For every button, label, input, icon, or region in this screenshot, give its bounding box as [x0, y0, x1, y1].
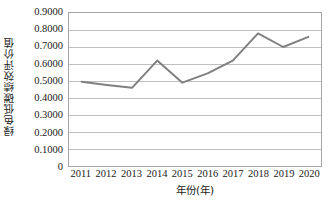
x-axis-tick-label: 2011	[70, 169, 91, 180]
x-axis-tick-label: 2017	[223, 169, 244, 180]
x-axis-tick-label: 2016	[197, 169, 218, 180]
x-axis-title: 年份(年)	[68, 185, 322, 196]
x-axis-tick-label: 2020	[299, 169, 320, 180]
y-axis-tick-label: 0.2000	[34, 127, 63, 138]
x-axis-tick-label: 2012	[96, 169, 117, 180]
data-series-line	[82, 33, 309, 87]
y-axis-title-label: 绿色低碳绩效评价值	[4, 37, 15, 136]
y-axis-tick-label: 0.6000	[34, 58, 63, 69]
y-axis-tick-label: 0.4000	[34, 93, 63, 104]
y-axis-tick-label: 0	[58, 162, 63, 173]
x-axis-tick-label: 2013	[121, 169, 142, 180]
y-axis-tick-label: 0.3000	[34, 110, 63, 121]
x-axis-tick-labels: 2011201220132014201520162017201820192020	[68, 169, 322, 184]
plot-svg	[69, 13, 321, 166]
y-axis-tick-label: 0.5000	[34, 76, 63, 87]
line-chart: 绿色低碳绩效评价值 0.90000.80000.70000.60000.5000…	[0, 0, 334, 207]
series-polyline	[82, 33, 309, 87]
plot-area	[68, 12, 322, 167]
x-axis-tick-label: 2018	[248, 169, 269, 180]
y-axis-tick-labels: 0.90000.80000.70000.60000.50000.40000.30…	[18, 0, 66, 175]
y-axis-tick-label: 0.9000	[34, 7, 63, 18]
y-axis-title: 绿色低碳绩效评价值	[0, 0, 18, 172]
y-axis-tick-label: 0.8000	[34, 24, 63, 35]
x-axis-tick-label: 2019	[273, 169, 294, 180]
y-axis-tick-label: 0.7000	[34, 41, 63, 52]
y-axis-tick-label: 0.1000	[34, 145, 63, 156]
x-axis-tick-label: 2015	[172, 169, 193, 180]
x-axis-title-label: 年份(年)	[176, 184, 214, 196]
x-axis-tick-label: 2014	[146, 169, 167, 180]
